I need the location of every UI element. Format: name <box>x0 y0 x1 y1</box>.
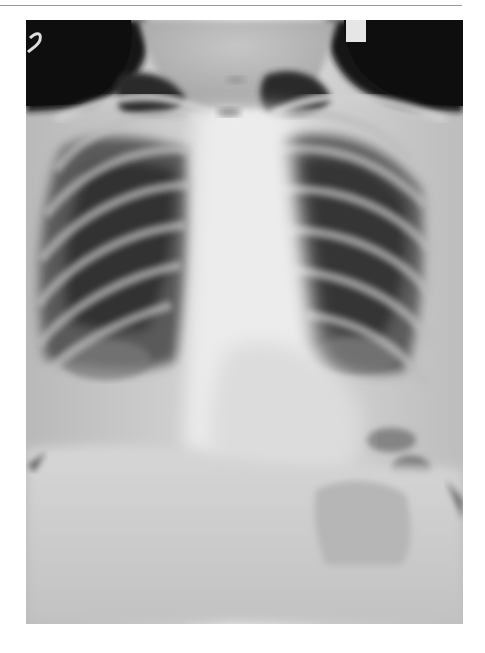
trachea-air-upper <box>226 76 246 84</box>
trachea-air-lower <box>217 107 241 117</box>
gastric-bubble <box>314 481 410 565</box>
top-rule-line <box>0 5 462 6</box>
chest-xray-image: Posteroanterior chest X-ray showing both… <box>26 20 463 624</box>
lung-field-left <box>39 137 188 370</box>
film-tag <box>346 20 366 42</box>
xray-drawing <box>26 20 463 624</box>
